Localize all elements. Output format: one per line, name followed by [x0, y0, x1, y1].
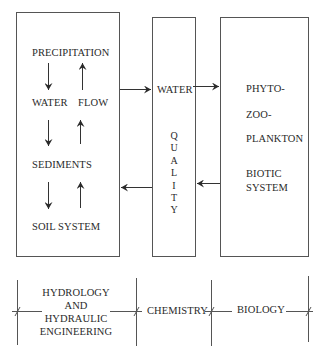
label-phyto: PHYTO-: [246, 84, 285, 95]
label-system: SYSTEM: [246, 183, 288, 194]
label-quality-vertical: Q U A L I T Y: [168, 130, 180, 217]
label-chemistry: CHEMISTRY: [147, 306, 208, 317]
label-and: AND: [38, 301, 114, 312]
label-biology: BIOLOGY: [237, 305, 285, 316]
label-precipitation: PRECIPITATION: [32, 48, 109, 59]
label-plankton: PLANKTON: [246, 134, 303, 145]
label-hydraulic: HYDRAULIC: [38, 314, 114, 325]
label-sediments: SEDIMENTS: [32, 160, 92, 171]
label-water-quality-water: WATER: [157, 85, 193, 96]
label-soil-system: SOIL SYSTEM: [32, 222, 100, 233]
label-zoo: ZOO-: [246, 110, 271, 121]
label-flow: FLOW: [78, 98, 108, 109]
label-engineering: ENGINEERING: [34, 327, 118, 338]
label-biotic: BIOTIC: [246, 169, 282, 180]
label-hydrology: HYDROLOGY: [38, 288, 114, 299]
label-water: WATER: [32, 98, 68, 109]
